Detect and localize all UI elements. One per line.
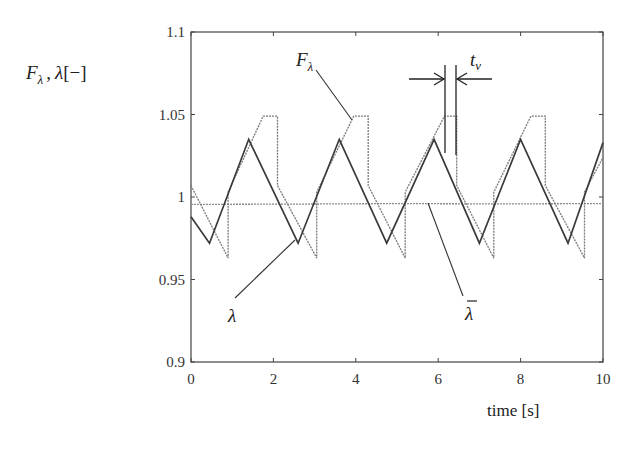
y-tick-label: 0.9: [166, 354, 185, 370]
label-f-lambda: Fλ: [295, 49, 314, 74]
label-lambda: λ: [227, 305, 236, 326]
x-axis-title: time [s]: [487, 401, 539, 420]
y-tick-label: 0.95: [159, 272, 185, 288]
label-lambda-bar: λ: [464, 301, 477, 324]
tick-marks: [191, 32, 603, 362]
x-tick-label: 6: [434, 371, 442, 387]
label-tv: tv: [470, 49, 481, 73]
y-tick-label: 1.05: [159, 107, 185, 123]
leader-f-lambda: [316, 70, 352, 120]
y-tick-label: 1: [178, 189, 186, 205]
series-lambda-bar: [191, 204, 603, 205]
svg-text:λ: λ: [464, 303, 473, 324]
series-f-lambda: [191, 116, 603, 258]
y-tick-labels: 0.90.9511.051.1: [159, 24, 185, 370]
leader-lambda: [235, 240, 295, 298]
y-axis-title: Fλ,λ[−]: [25, 62, 87, 87]
x-tick-label: 0: [187, 371, 195, 387]
y-tick-label: 1.1: [166, 24, 185, 40]
x-tick-label: 4: [352, 371, 360, 387]
plot-frame: [191, 32, 603, 362]
leader-lambda-bar: [428, 203, 463, 296]
series-lambda: [191, 139, 603, 243]
tv-marker: [409, 65, 492, 155]
x-tick-label: 2: [270, 371, 278, 387]
x-tick-labels: 0246810: [187, 371, 610, 387]
chart-svg: 0246810 0.90.9511.051.1 Fλ λ λ tv Fλ,λ[−…: [0, 0, 633, 449]
series-layer: [191, 116, 603, 258]
x-tick-label: 10: [596, 371, 611, 387]
x-tick-label: 8: [517, 371, 525, 387]
